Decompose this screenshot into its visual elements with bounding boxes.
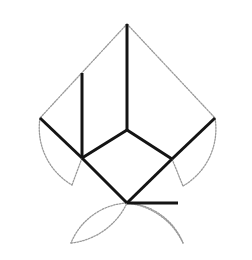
- geometric-figure: [0, 0, 252, 260]
- figure-canvas: [0, 0, 252, 260]
